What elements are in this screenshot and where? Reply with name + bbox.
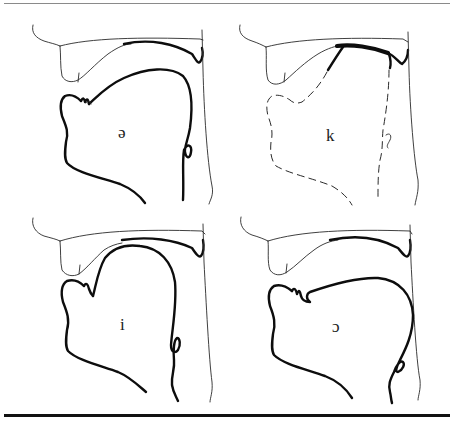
panel-open-o-drawing — [241, 217, 421, 403]
panel-open-o-label: ɔ — [332, 318, 340, 335]
vocal-tract-figure: ə k i ɔ — [0, 0, 451, 428]
panel-i-drawing — [33, 218, 213, 402]
diagram-drawing — [0, 0, 451, 428]
panel-k-drawing — [240, 25, 419, 205]
panel-k-label: k — [326, 127, 335, 144]
panel-schwa-drawing — [33, 25, 213, 204]
panel-i-label: i — [120, 316, 125, 333]
panel-schwa-label: ə — [118, 124, 126, 141]
